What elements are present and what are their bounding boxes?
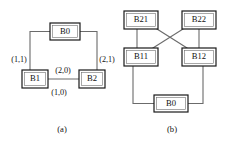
panel-b-group: B21 B22 B11 B12 (124, 11, 216, 134)
edge-b12-b0 (188, 66, 203, 104)
node-b1-panel-a[interactable]: B1 (22, 70, 48, 88)
node-b12[interactable]: B12 (182, 48, 216, 66)
edge-b0-b2 (80, 32, 97, 71)
node-b0-panel-b[interactable]: B0 (154, 95, 188, 112)
node-b22-label: B22 (192, 14, 206, 24)
edge-b21-b12 (157, 29, 187, 48)
node-b1-label: B1 (30, 73, 40, 83)
node-b0-label: B0 (60, 26, 70, 36)
node-b2-label: B2 (87, 73, 97, 83)
node-b12-label: B12 (192, 51, 206, 61)
figure-container: B0 B1 B2 (1,1) (2,0) (2,1) (1,0) (a) (0, 0, 227, 144)
node-b0-panel-b-label: B0 (166, 98, 176, 108)
node-b11-label: B11 (134, 51, 148, 61)
node-b21[interactable]: B21 (124, 11, 158, 29)
node-b21-label: B21 (134, 14, 148, 24)
node-b0-panel-a[interactable]: B0 (50, 23, 80, 40)
caption-panel-a: (a) (57, 124, 67, 134)
edge-b22-b11 (153, 29, 183, 48)
edge-label-1-0: (1,0) (51, 88, 67, 97)
edge-label-2-0: (2,0) (55, 66, 71, 75)
panel-a-group: B0 B1 B2 (1,1) (2,0) (2,1) (1,0) (a) (11, 23, 115, 134)
edge-b11-b0 (133, 66, 154, 104)
edge-label-2-1: (2,1) (99, 55, 115, 64)
figure-diagram: B0 B1 B2 (1,1) (2,0) (2,1) (1,0) (a) (0, 0, 227, 144)
node-b22[interactable]: B22 (182, 11, 216, 29)
caption-panel-b: (b) (167, 124, 177, 134)
edge-b0-b1 (30, 32, 50, 71)
node-b2-panel-a[interactable]: B2 (79, 70, 105, 88)
node-b11[interactable]: B11 (124, 48, 158, 66)
edge-label-1-1: (1,1) (11, 55, 27, 64)
